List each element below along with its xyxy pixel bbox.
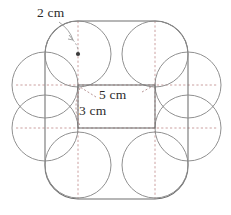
radius-dimension-label: 2 cm [37, 6, 64, 20]
geometry-figure: 2 cm 5 cm 3 cm [0, 0, 231, 215]
height-dimension-label: 3 cm [79, 104, 106, 118]
radius-leader-to-center [73, 40, 78, 54]
circle-center-dot [76, 52, 80, 56]
geometry-canvas [0, 0, 231, 215]
width-leader-left-segment [80, 87, 96, 97]
width-dimension-label: 5 cm [99, 88, 126, 102]
radius-dimension-leader [59, 22, 78, 54]
circle-group [12, 21, 221, 198]
